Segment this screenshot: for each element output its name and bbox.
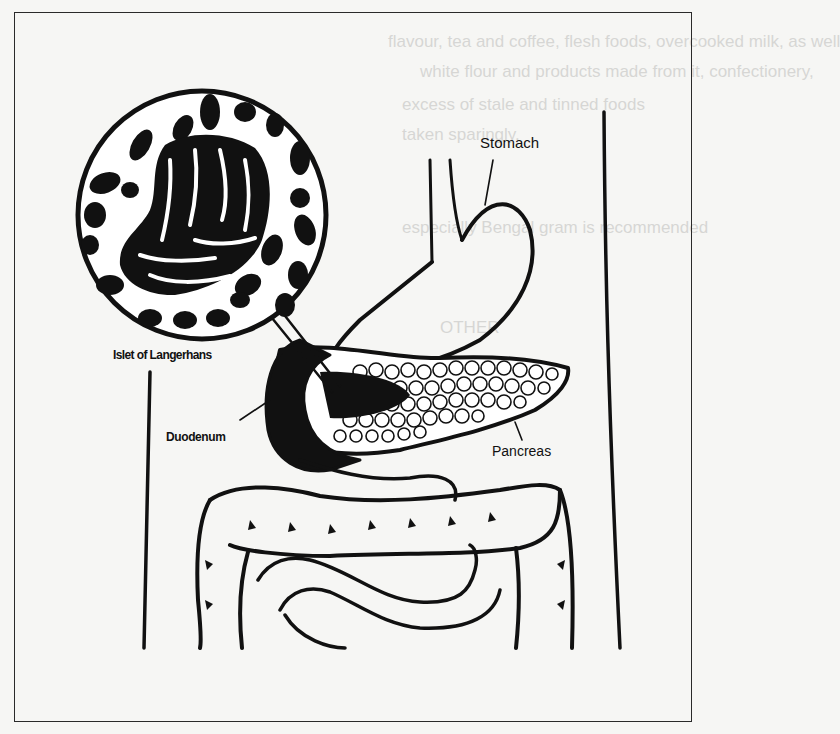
pancreas-label-line [515,422,522,440]
label-stomach: Stomach [480,134,539,151]
body-outline-left [144,372,150,648]
colon-ascending [197,500,248,648]
body-outline-right [604,112,620,648]
colon-descending [516,490,573,648]
label-duodenum: Duodenum [166,430,225,444]
label-pancreas: Pancreas [492,443,551,459]
label-islet-of-langerhans: Islet of Langerhans [113,348,212,362]
islet-magnification [78,91,326,339]
stomach-label-line [485,160,493,205]
colon-transverse [210,485,560,556]
esophagus [430,160,462,262]
